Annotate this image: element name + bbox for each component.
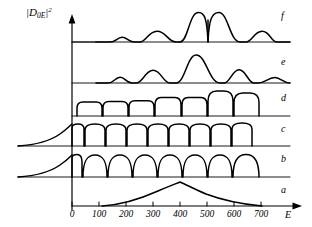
- curve-row-f: [72, 12, 290, 42]
- curve-row-c: [18, 123, 290, 146]
- plot-canvas: [0, 0, 312, 227]
- x-tick-label-400: 400: [173, 209, 187, 219]
- x-tick-label-300: 300: [146, 209, 160, 219]
- x-tick-label-600: 600: [227, 209, 241, 219]
- y-axis: [69, 14, 76, 210]
- x-axis-label: E: [285, 209, 291, 220]
- curve-row-e: [72, 55, 290, 83]
- row-label-d: d: [281, 92, 286, 103]
- x-tick-label-200: 200: [119, 209, 133, 219]
- curve-row-d: [72, 91, 290, 116]
- row-label-c: c: [281, 123, 285, 134]
- figure-root: |D0E|2: [0, 0, 312, 227]
- x-tick-label-0: 0: [70, 209, 75, 219]
- row-label-a: a: [281, 184, 286, 195]
- row-label-e: e: [281, 56, 285, 67]
- row-label-f: f: [281, 10, 284, 21]
- x-tick-label-700: 700: [254, 209, 268, 219]
- row-label-b: b: [281, 153, 286, 164]
- curve-row-b: [18, 155, 290, 178]
- x-tick-label-100: 100: [92, 209, 106, 219]
- x-tick-label-500: 500: [200, 209, 214, 219]
